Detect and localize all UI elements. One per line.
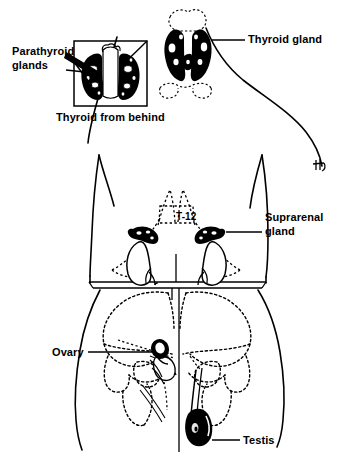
label-suprarenal-line2: gland (265, 225, 295, 237)
label-suprarenal-gland: Suprarenal gland (265, 210, 345, 238)
kidney-right (198, 242, 226, 285)
label-vertebra-t12: T-12 (176, 210, 196, 223)
inset-connector (125, 41, 147, 62)
midline-divider (172, 254, 179, 452)
thyroid-gland-illustration (160, 10, 212, 98)
label-parathyroid-glands: Parathyroid glands (12, 44, 90, 72)
waist-divider (89, 282, 266, 288)
label-parathyroid-line1: Parathyroid (12, 45, 74, 57)
suprarenal-gland-left (128, 227, 159, 244)
testis-structure (185, 356, 212, 446)
artist-signature-mark (313, 159, 325, 171)
kidney-left (127, 242, 157, 285)
label-ovary: Ovary (52, 346, 84, 359)
pelvis-right-dotted (180, 292, 251, 426)
caption-thyroid-from-behind: Thyroid from behind (56, 111, 165, 124)
anatomy-figure: Parathyroid glands Thyroid from behind T… (0, 0, 349, 467)
label-thyroid-gland: Thyroid gland (248, 33, 322, 46)
suprarenal-gland-right (195, 227, 226, 244)
label-suprarenal-line1: Suprarenal (265, 211, 323, 223)
label-testis: Testis (243, 434, 275, 447)
label-parathyroid-line2: glands (12, 59, 48, 71)
